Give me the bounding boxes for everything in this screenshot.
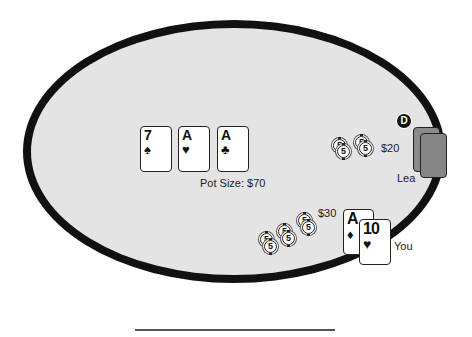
card-rank: A xyxy=(347,211,359,227)
divider-line xyxy=(135,329,335,331)
card-rank: 7 xyxy=(144,128,152,142)
heart-icon: ♥ xyxy=(182,143,190,156)
chip-icon: 5 xyxy=(264,240,277,253)
hero-bet-label: $30 xyxy=(318,207,336,219)
chip-icon: 5 xyxy=(359,142,372,155)
dealer-button-icon: D xyxy=(397,114,411,128)
board-card-3: A ♣ xyxy=(217,126,249,172)
club-icon: ♣ xyxy=(221,143,230,156)
heart-icon: ♥ xyxy=(363,238,371,251)
hero-name: You xyxy=(394,240,413,252)
chip-icon: 5 xyxy=(302,221,315,234)
opponent-bet-label: $20 xyxy=(381,142,399,154)
spade-icon: ♠ xyxy=(144,143,151,156)
chip-icon: 5 xyxy=(282,232,295,245)
opponent-card-back-2 xyxy=(420,133,447,178)
board-card-2: A ♥ xyxy=(178,126,210,172)
chip-icon: 5 xyxy=(337,145,350,158)
diamond-icon: ♦ xyxy=(347,228,354,241)
opponent-name: Lea xyxy=(397,172,415,184)
card-rank: 10 xyxy=(363,221,379,237)
card-rank: A xyxy=(182,128,192,142)
board-card-1: 7 ♠ xyxy=(140,126,172,172)
pot-size-label: Pot Size: $70 xyxy=(200,177,265,189)
card-rank: A xyxy=(221,128,231,142)
hero-card-2: 10 ♥ xyxy=(359,219,391,265)
